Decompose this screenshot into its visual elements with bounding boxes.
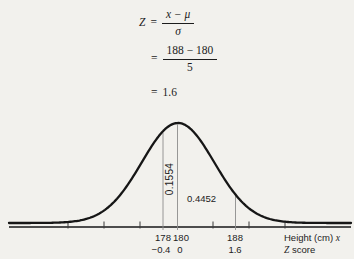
- x-axis-title-text: Height (cm): [284, 232, 333, 243]
- z-tick-label-0: 0: [177, 244, 182, 255]
- x-tick-label-180: 180: [173, 232, 189, 243]
- area-label-0-4452: 0.4452: [187, 193, 216, 204]
- area-label-0-1554: 0.1554: [164, 163, 175, 195]
- z-axis-title: Z score: [284, 244, 315, 256]
- textbook-figure-page: Z = x − μ σ = 188 − 180 5 = 1.6 0.1554 0…: [0, 0, 354, 259]
- x-tick-label-188: 188: [227, 232, 243, 243]
- x-tick-label-178: 178: [155, 232, 171, 243]
- z-axis-title-text: score: [292, 244, 315, 255]
- normal-curve-plot: [0, 0, 354, 259]
- x-axis-title: Height (cm) x: [284, 232, 340, 244]
- z-tick-label-1-6: 1.6: [228, 244, 241, 255]
- normal-curve: [9, 123, 351, 223]
- x-axis-variable: x: [336, 233, 340, 243]
- z-tick-label-minus-0-4: −0.4: [152, 244, 171, 255]
- z-axis-variable: Z: [284, 245, 289, 255]
